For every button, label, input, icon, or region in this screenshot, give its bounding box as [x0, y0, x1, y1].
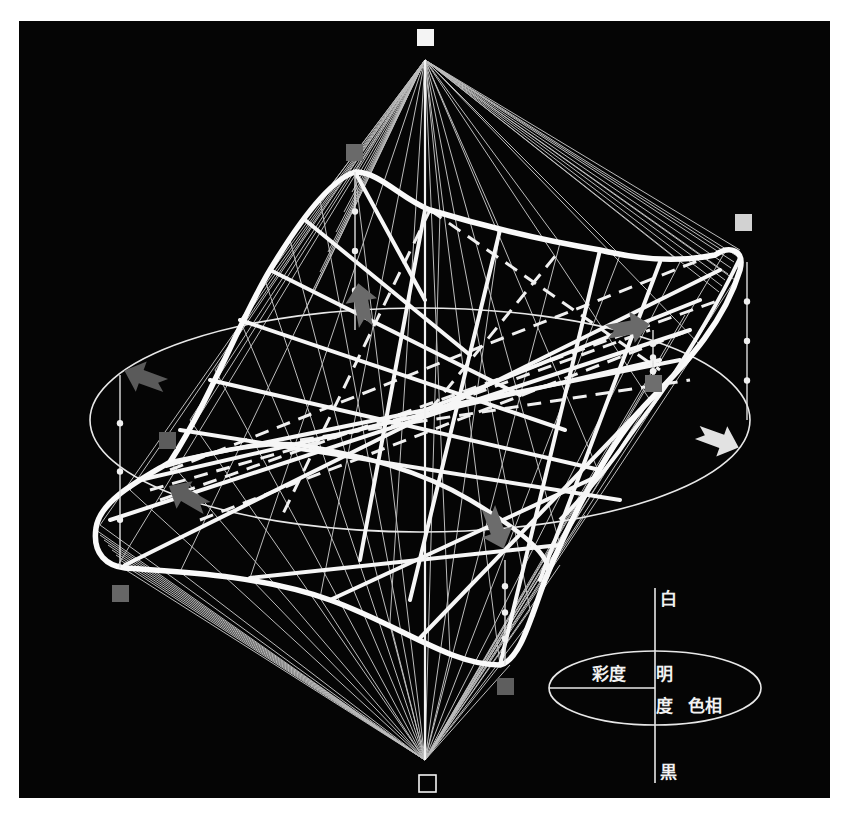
hue-square-lower-left: [112, 585, 129, 602]
black-point-square: [419, 775, 436, 792]
ray-from-black-point: [100, 525, 425, 760]
ray-from-white-point: [100, 60, 425, 525]
guide-node-dot: [744, 338, 750, 344]
guide-node-dot: [650, 341, 656, 347]
guide-node-dot: [117, 517, 123, 523]
ray-from-black-point: [240, 320, 425, 760]
ray-from-white-point: [118, 60, 425, 565]
legend: 白 彩度 明 度 色相 黒: [549, 588, 761, 783]
ray-bundle-line: [425, 60, 722, 286]
legend-saturation-label: 彩度: [591, 664, 627, 684]
hue-square-upper-right: [735, 214, 752, 231]
hue-square-left: [159, 432, 176, 449]
guide-node-dot: [502, 609, 508, 615]
ray-from-black-point: [265, 280, 425, 760]
guide-node-dot: [650, 354, 656, 360]
ray-from-white-point: [390, 60, 425, 622]
guide-node-dot: [352, 248, 358, 254]
hue-square-upper-left: [346, 144, 363, 161]
hue-square-lower-right: [497, 678, 514, 695]
guide-node-dot: [352, 208, 358, 214]
guide-node-dot: [502, 583, 508, 589]
arrow-right-icon: [692, 417, 744, 462]
surface-rib: [250, 545, 560, 578]
legend-white-label: 白: [660, 589, 677, 609]
guide-node-dot: [650, 368, 656, 374]
surface-rib: [360, 210, 425, 560]
surface-rib: [420, 410, 640, 638]
arrow-left-icon: [119, 355, 171, 400]
ray-bundle-line: [425, 60, 734, 262]
surface-rib: [305, 220, 470, 355]
hue-square-right: [645, 375, 662, 392]
legend-black-label: 黒: [660, 762, 677, 782]
ray-bundle-line: [425, 615, 535, 760]
white-point-square: [417, 29, 434, 46]
ray-bundle-line: [124, 565, 425, 760]
ray-from-black-point: [180, 572, 425, 760]
legend-hue-label: 色相: [688, 696, 722, 716]
ray-from-black-point: [320, 598, 425, 760]
guide-node-dot: [744, 298, 750, 304]
legend-lightness-label-2: 度: [656, 696, 674, 716]
guide-node-dot: [117, 420, 123, 426]
guide-node-dot: [744, 377, 750, 383]
ray-from-white-point: [425, 60, 440, 212]
legend-lightness-label-1: 明: [656, 664, 673, 684]
guide-node-dot: [117, 468, 123, 474]
color-solid-diagram: 白 彩度 明 度 色相 黒: [0, 0, 843, 814]
guide-node-dot: [502, 636, 508, 642]
